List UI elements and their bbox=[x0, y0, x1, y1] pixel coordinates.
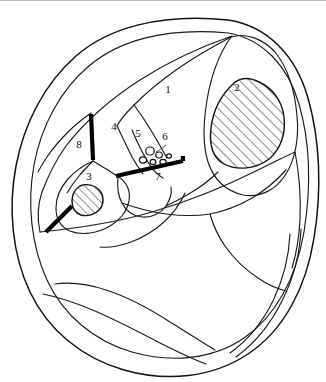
septum-horizontal bbox=[116, 161, 183, 176]
label-5: 5 bbox=[135, 127, 141, 139]
anatomical-cross-section-diagram: 1 2 3 4 5 6 7 8 bbox=[0, 0, 326, 382]
label-4: 4 bbox=[111, 120, 117, 132]
lower-right-fascial-band bbox=[230, 229, 301, 357]
label-6: 6 bbox=[162, 130, 168, 142]
figure-root: 1 2 3 4 5 6 7 8 bbox=[0, 0, 326, 382]
region-3-hatched bbox=[72, 185, 103, 216]
septum-upper-left bbox=[91, 114, 93, 160]
outer-skin-contour bbox=[12, 18, 319, 376]
lower-compartment-outline bbox=[43, 283, 215, 364]
label-3: 3 bbox=[86, 170, 92, 182]
label-2: 2 bbox=[234, 81, 240, 93]
septum-lower-left bbox=[46, 206, 72, 232]
label-7: 7 bbox=[155, 170, 161, 182]
label-1: 1 bbox=[165, 83, 171, 95]
region-2-hatched bbox=[211, 79, 285, 168]
label-8: 8 bbox=[76, 138, 82, 150]
